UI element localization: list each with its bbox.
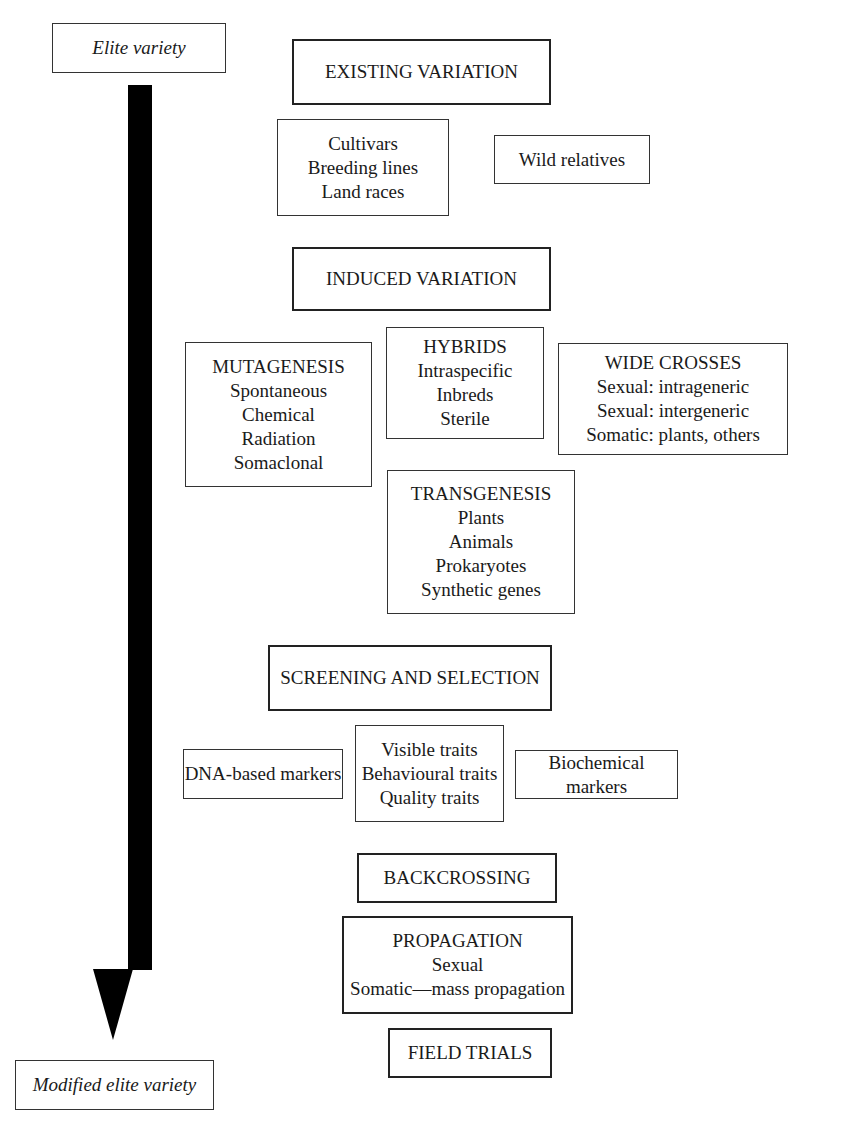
induced-variation-title: INDUCED VARIATION [326,267,517,291]
transgenesis-item: Prokaryotes [436,554,527,578]
transgenesis-title: TRANSGENESIS [411,482,551,506]
wide-crosses-item: Somatic: plants, others [586,423,760,447]
source-item: Land races [322,180,405,204]
transgenesis-item: Plants [458,506,504,530]
backcrossing-box: BACKCROSSING [357,853,557,903]
field-trials-title: FIELD TRIALS [408,1041,533,1065]
modified-elite-variety-label: Modified elite variety [33,1073,197,1097]
trait-item: Behavioural traits [362,762,498,786]
wide-crosses-item: Sexual: intrageneric [597,375,749,399]
trait-item: Visible traits [381,738,477,762]
propagation-item: Sexual [432,953,484,977]
propagation-box: PROPAGATION Sexual Somatic—mass propagat… [342,916,573,1014]
screening-selection-header: SCREENING AND SELECTION [268,645,552,711]
mutagenesis-item: Somaclonal [234,451,324,475]
dna-markers-label: DNA-based markers [185,762,342,786]
existing-variation-header: EXISTING VARIATION [292,39,551,105]
mutagenesis-box: MUTAGENESIS Spontaneous Chemical Radiati… [185,342,372,487]
induced-variation-header: INDUCED VARIATION [292,247,551,311]
source-item: Cultivars [328,132,398,156]
transgenesis-item: Synthetic genes [421,578,541,602]
field-trials-box: FIELD TRIALS [388,1028,552,1078]
modified-elite-variety-box: Modified elite variety [15,1060,214,1110]
wide-crosses-item: Sexual: intergeneric [597,399,749,423]
existing-variation-title: EXISTING VARIATION [325,60,518,84]
hybrids-item: Intraspecific [418,359,513,383]
existing-sources-box: Cultivars Breeding lines Land races [277,119,449,216]
hybrids-item: Sterile [440,407,490,431]
traits-box: Visible traits Behavioural traits Qualit… [355,725,504,822]
wide-crosses-box: WIDE CROSSES Sexual: intrageneric Sexual… [558,343,788,455]
mutagenesis-item: Radiation [242,427,316,451]
wild-relatives-box: Wild relatives [494,135,650,184]
propagation-item: Somatic—mass propagation [350,977,565,1001]
wild-relatives-label: Wild relatives [519,148,625,172]
dna-markers-box: DNA-based markers [183,749,343,799]
propagation-title: PROPAGATION [392,929,522,953]
process-arrow-shaft [128,85,152,970]
biochemical-markers-label: Biochemical markers [516,751,677,799]
transgenesis-box: TRANSGENESIS Plants Animals Prokaryotes … [387,470,575,614]
wide-crosses-title: WIDE CROSSES [605,351,742,375]
backcrossing-title: BACKCROSSING [384,866,531,890]
elite-variety-box: Elite variety [52,23,226,73]
mutagenesis-item: Chemical [242,403,315,427]
screening-selection-title: SCREENING AND SELECTION [280,666,540,690]
hybrids-title: HYBRIDS [423,335,506,359]
hybrids-box: HYBRIDS Intraspecific Inbreds Sterile [386,327,544,439]
mutagenesis-title: MUTAGENESIS [212,355,345,379]
trait-item: Quality traits [380,786,480,810]
arrow-down-icon [93,969,133,1040]
source-item: Breeding lines [308,156,418,180]
hybrids-item: Inbreds [437,383,494,407]
elite-variety-label: Elite variety [92,36,185,60]
biochemical-markers-box: Biochemical markers [515,750,678,799]
transgenesis-item: Animals [449,530,513,554]
mutagenesis-item: Spontaneous [230,379,327,403]
